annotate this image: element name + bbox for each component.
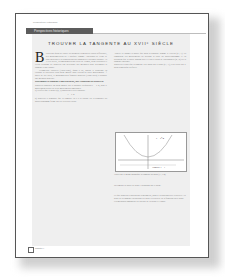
tangent-label: Tangente y = 1: [152, 166, 165, 168]
curve-label: y = x²/4: [156, 137, 165, 140]
figure-caption: Déterminer la droite de pente 1/2 passan…: [114, 184, 186, 187]
dropcap: B: [35, 52, 44, 63]
paragraph: Appelle ce danger la parole que nous la …: [114, 52, 186, 63]
running-head: Perspectives Historiques: [33, 21, 57, 23]
left-column: B ien avant qu'on ait trouvé les premier…: [35, 52, 107, 102]
document-page: Perspectives Historiques Perspectives hi…: [15, 13, 209, 258]
footer-text: Chapitre 4: [35, 247, 44, 249]
paragraph: Évangelista Torricelli (1608-1647), quan…: [35, 69, 107, 80]
page-title: TROUVER LA TANGENTE AU XVIIᵉ SIÈCLE: [32, 41, 190, 46]
content-panel: TROUVER LA TANGENTE AU XVIIᵉ SIÈCLE B ie…: [32, 34, 190, 246]
page-icon: [28, 247, 34, 253]
paragraph-text: Évangelista Torricelli (1608-1647), quan…: [35, 69, 107, 79]
paragraph: B ien avant qu'on ait trouvé les premier…: [35, 52, 107, 69]
step: a) Vérifier que le point P(2, 1) apparti…: [35, 89, 107, 92]
figure-caption: Tracer sur le même graphique la tangente…: [114, 173, 186, 176]
parabola-figure: y = x²/4 Tangente y = 1: [115, 132, 187, 172]
step: b) Roberval a démontré que la tangente e…: [35, 97, 107, 103]
paragraph: Roberval a établi que la tangente en P p…: [114, 63, 186, 69]
paragraph-text: ien avant qu'on ait trouvé les premiers …: [35, 52, 107, 68]
parabola-graph: y = x²/4 Tangente y = 1: [116, 133, 186, 171]
right-column: Appelle ce danger la parole que nous la …: [114, 52, 186, 69]
closing-paragraph: Ce que Roberval a obtenu par la géométri…: [114, 194, 186, 202]
formula: y = x²/4: [35, 93, 107, 96]
